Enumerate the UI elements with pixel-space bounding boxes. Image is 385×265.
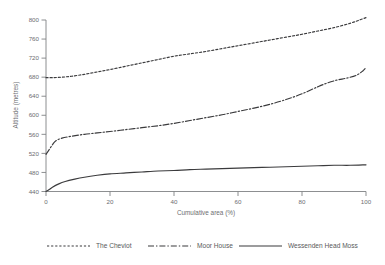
chart-figure: 800 760 720 680 640 600 560 520 480 440 … <box>0 0 385 265</box>
legend-label-the-cheviot: The Cheviot <box>96 242 132 249</box>
x-axis-title: Cumulative area (%) <box>177 209 235 217</box>
y-tick-label: 800 <box>29 16 40 23</box>
chart-legend: The Cheviot Moor House Wessenden Head Mo… <box>47 242 359 249</box>
x-tick-label: 40 <box>171 198 178 205</box>
y-tick-label: 760 <box>29 35 40 42</box>
y-axis-ticks <box>42 20 47 192</box>
y-tick-label: 440 <box>29 188 40 195</box>
y-tick-label: 600 <box>29 111 40 118</box>
legend-label-moor-house: Moor House <box>197 242 233 249</box>
line-chart: 800 760 720 680 640 600 560 520 480 440 … <box>0 0 385 265</box>
y-tick-label: 520 <box>29 150 40 157</box>
x-tick-label: 100 <box>361 198 372 205</box>
y-tick-label: 640 <box>29 92 40 99</box>
x-axis-tick-labels: 0 20 40 60 80 100 <box>44 198 371 205</box>
x-tick-label: 60 <box>235 198 242 205</box>
legend-label-wessenden-head-moss: Wessenden Head Moss <box>288 242 359 249</box>
series-line-wessenden-head-moss <box>46 165 366 192</box>
x-axis-ticks <box>46 192 366 197</box>
y-tick-label: 480 <box>29 169 40 176</box>
y-axis-title: Altitude (metres) <box>12 82 20 129</box>
y-tick-label: 720 <box>29 54 40 61</box>
series-line-moor-house <box>46 68 366 155</box>
y-tick-label: 680 <box>29 73 40 80</box>
y-tick-label: 560 <box>29 131 40 138</box>
x-tick-label: 20 <box>107 198 114 205</box>
y-axis-tick-labels: 800 760 720 680 640 600 560 520 480 440 <box>29 16 40 195</box>
series-line-the-cheviot <box>46 18 366 78</box>
x-tick-label: 0 <box>44 198 48 205</box>
x-tick-label: 80 <box>299 198 306 205</box>
